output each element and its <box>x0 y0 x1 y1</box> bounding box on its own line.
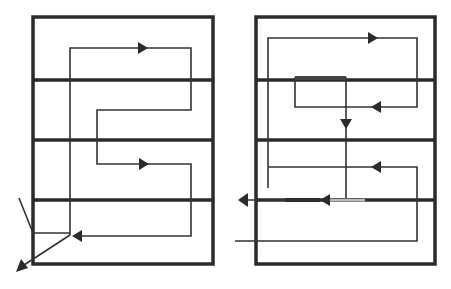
arrow-left-icon <box>371 161 381 173</box>
right-exit-segment <box>285 198 320 202</box>
right-thick-connector <box>295 76 346 80</box>
flow-diagram <box>0 0 451 289</box>
right-panel <box>235 17 435 264</box>
arrow-left-icon <box>371 101 381 113</box>
arrow-left-icon <box>72 230 82 242</box>
arrow-exit-icon <box>16 259 28 272</box>
arrow-right-icon <box>138 42 148 54</box>
right-exit-light-segment <box>330 199 365 202</box>
arrow-down-icon <box>340 119 352 129</box>
arrow-right-icon <box>139 158 149 170</box>
arrow-left-icon <box>320 194 330 206</box>
arrow-right-icon <box>368 32 378 44</box>
left-panel <box>16 17 213 272</box>
arrow-exit-left-icon <box>238 193 248 207</box>
